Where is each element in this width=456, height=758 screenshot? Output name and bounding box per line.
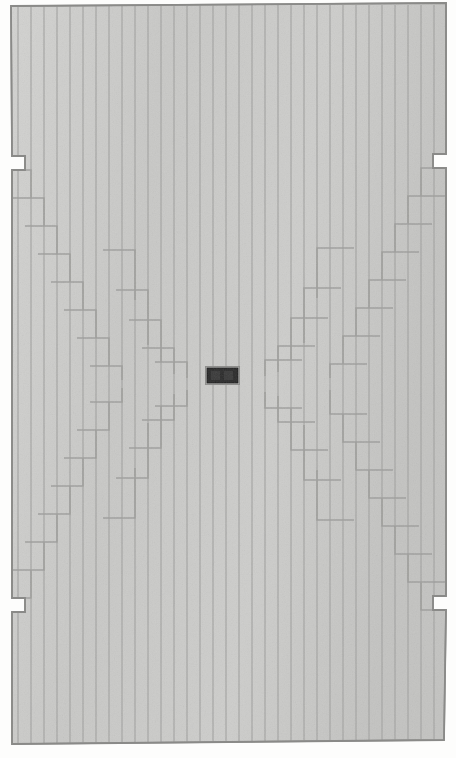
device-micrograph [0, 0, 456, 758]
image-canvas [0, 0, 456, 758]
micrograph-svg [0, 0, 456, 758]
film-grain [0, 0, 456, 758]
